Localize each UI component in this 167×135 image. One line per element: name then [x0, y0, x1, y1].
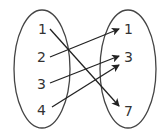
range-value-3: 3: [124, 49, 133, 65]
arrow-1-to-7: [50, 29, 119, 106]
domain-value-3: 3: [37, 76, 46, 92]
domain-value-4: 4: [37, 102, 46, 118]
mapping-diagram: 1 2 3 4 1 3 7: [0, 0, 167, 135]
arrow-3-to-3: [50, 56, 119, 83]
range-value-7: 7: [124, 103, 133, 119]
domain-value-2: 2: [37, 49, 46, 65]
arrow-2-to-1: [50, 29, 119, 57]
arrow-4-to-3: [52, 65, 119, 107]
domain-value-1: 1: [38, 21, 47, 37]
range-value-1: 1: [124, 21, 133, 37]
